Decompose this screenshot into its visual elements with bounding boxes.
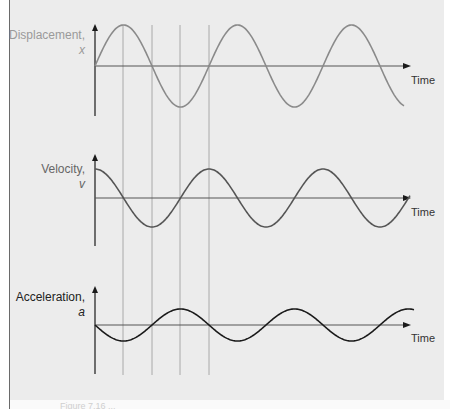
acceleration-label: Acceleration, a (16, 290, 85, 320)
velocity-label-text: Velocity, (41, 162, 85, 176)
y-arrow-icon (92, 286, 98, 293)
velocity-plot (92, 154, 411, 246)
phase-guide-lines (123, 25, 209, 375)
displacement-variable: x (9, 43, 85, 58)
displacement-plot (92, 24, 411, 116)
velocity-variable: v (41, 177, 85, 192)
displacement-time-label: Time (411, 74, 435, 86)
y-arrow-icon (92, 24, 98, 31)
x-arrow-icon (403, 322, 411, 328)
y-arrow-icon (92, 154, 98, 161)
velocity-time-label: Time (411, 206, 435, 218)
acceleration-time-label: Time (411, 332, 435, 344)
caption-strip: Figure 7.16 ... (9, 400, 450, 409)
acceleration-variable: a (16, 305, 85, 320)
x-arrow-icon (403, 63, 411, 69)
acceleration-plot (92, 286, 414, 374)
velocity-label: Velocity, v (41, 162, 85, 192)
displacement-label-text: Displacement, (9, 28, 85, 42)
figure-caption: Figure 7.16 ... (60, 402, 116, 409)
displacement-label: Displacement, x (9, 28, 85, 58)
acceleration-label-text: Acceleration, (16, 290, 85, 304)
